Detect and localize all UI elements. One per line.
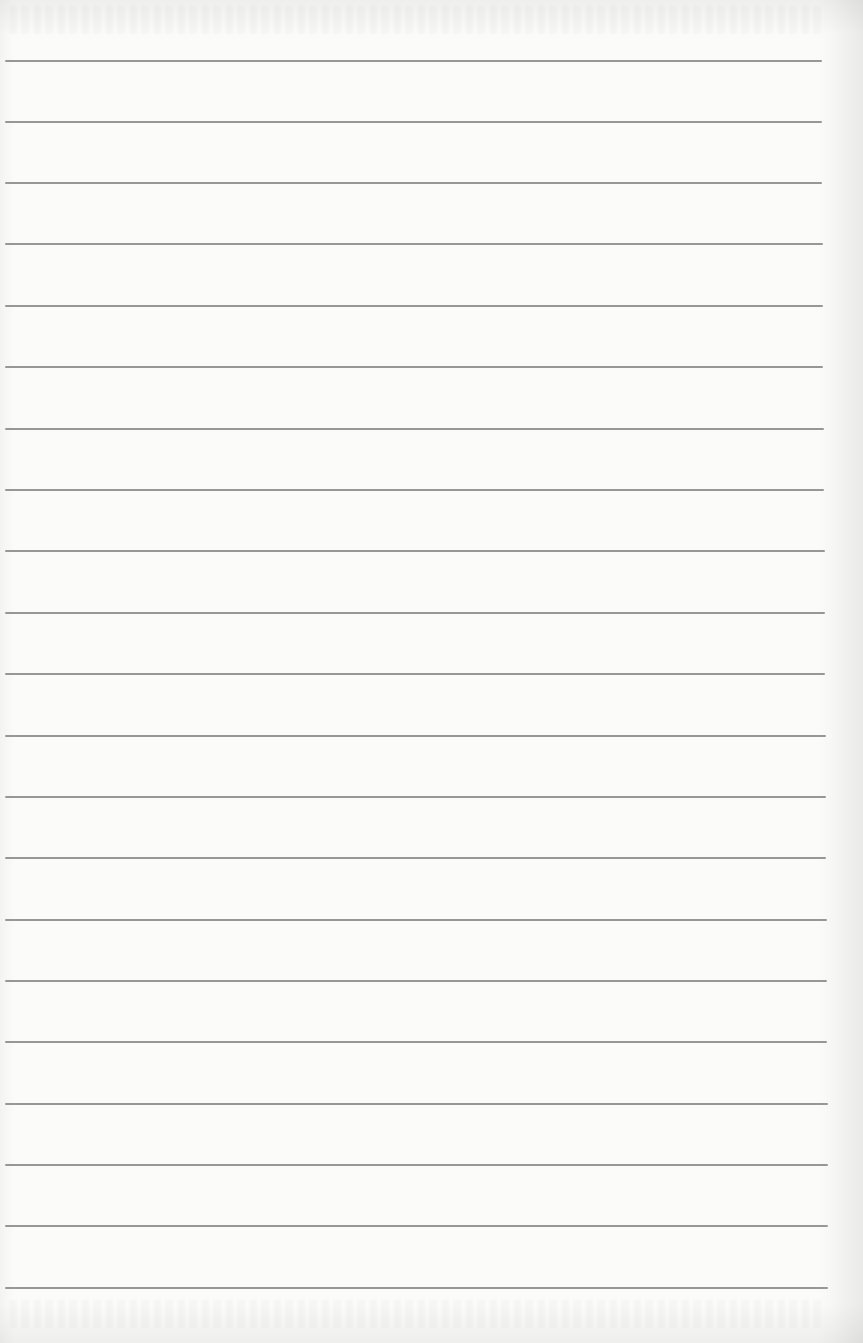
- ruled-line: [5, 1164, 828, 1166]
- ruled-lines: [0, 0, 863, 1343]
- ruled-line: [5, 980, 827, 982]
- ruled-line: [5, 305, 823, 307]
- ruled-line: [5, 550, 825, 552]
- ruled-line: [5, 1225, 828, 1227]
- ruled-line: [5, 489, 824, 491]
- ruled-line: [5, 612, 825, 614]
- lined-paper-page: [0, 0, 863, 1343]
- ruled-line: [5, 1287, 828, 1289]
- ruled-line: [5, 121, 822, 123]
- ruled-line: [5, 60, 822, 62]
- ruled-line: [5, 182, 822, 184]
- ruled-line: [5, 1041, 827, 1043]
- ruled-line: [5, 919, 827, 921]
- ruled-line: [5, 243, 823, 245]
- ruled-line: [5, 366, 823, 368]
- ruled-line: [5, 673, 825, 675]
- ruled-line: [5, 428, 824, 430]
- ruled-line: [5, 735, 826, 737]
- ruled-line: [5, 796, 826, 798]
- ruled-line: [5, 857, 826, 859]
- ruled-line: [5, 1103, 828, 1105]
